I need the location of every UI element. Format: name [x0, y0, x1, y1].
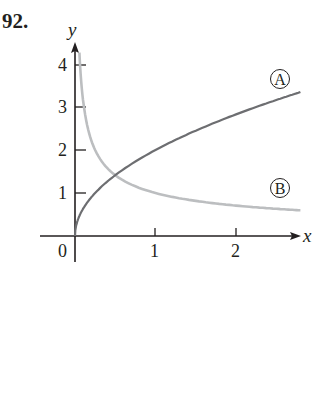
y-tick-label-2: 2 [58, 140, 67, 160]
problem-number: 92. [2, 9, 28, 33]
curve-b-label: B [275, 180, 286, 197]
curve-a-label: A [274, 71, 286, 88]
x-axis-label: x [302, 225, 312, 246]
y-tick-label-3: 3 [58, 97, 67, 117]
function-graph: 92. x y 0 1 2 1 2 3 4 A B [0, 0, 313, 409]
x-tick-label-0: 0 [58, 241, 67, 261]
curve-a [75, 92, 300, 236]
curve-b [79, 53, 300, 211]
x-tick-label-1: 1 [150, 241, 159, 261]
y-tick-label-1: 1 [58, 183, 67, 203]
y-tick-label-4: 4 [58, 55, 67, 75]
y-axis-label: y [66, 19, 77, 40]
x-tick-label-2: 2 [231, 241, 240, 261]
